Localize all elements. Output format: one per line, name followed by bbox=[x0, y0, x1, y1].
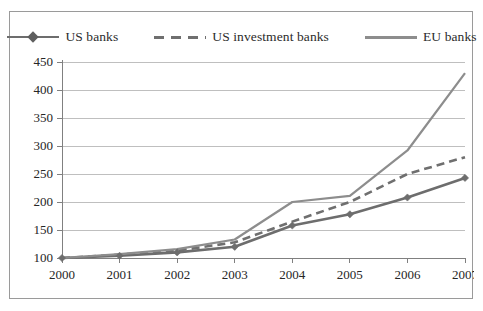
svg-text:2002: 2002 bbox=[164, 267, 190, 282]
svg-text:2006: 2006 bbox=[394, 267, 421, 282]
y-axis bbox=[57, 60, 62, 262]
svg-text:250: 250 bbox=[34, 166, 54, 181]
series-markers bbox=[58, 174, 468, 261]
chart-container: US banks US investment banks EU banks bbox=[9, 11, 473, 299]
svg-text:2005: 2005 bbox=[337, 267, 363, 282]
svg-text:2004: 2004 bbox=[279, 267, 306, 282]
svg-text:350: 350 bbox=[34, 110, 54, 125]
svg-text:2003: 2003 bbox=[222, 267, 248, 282]
screenshot-root: US banks US investment banks EU banks bbox=[0, 0, 483, 311]
svg-text:200: 200 bbox=[34, 194, 54, 209]
svg-text:150: 150 bbox=[34, 222, 54, 237]
svg-text:2000: 2000 bbox=[49, 267, 75, 282]
grid-lines bbox=[62, 62, 465, 258]
svg-text:400: 400 bbox=[34, 82, 54, 97]
svg-text:2001: 2001 bbox=[107, 267, 133, 282]
svg-text:2007: 2007 bbox=[452, 267, 474, 282]
svg-text:100: 100 bbox=[34, 250, 54, 265]
svg-text:450: 450 bbox=[34, 54, 54, 69]
plot-area: 100150200250300350400450 200020012002200… bbox=[10, 12, 474, 300]
y-tick-labels: 100150200250300350400450 bbox=[34, 54, 54, 265]
x-axis bbox=[62, 258, 465, 263]
line-chart-svg: 100150200250300350400450 200020012002200… bbox=[10, 12, 474, 300]
svg-text:300: 300 bbox=[34, 138, 54, 153]
clipped-caption-strip bbox=[0, 0, 483, 10]
x-tick-labels: 20002001200220032004200520062007 bbox=[49, 267, 474, 282]
